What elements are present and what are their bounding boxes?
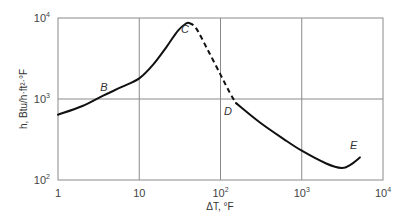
curve-segment — [189, 23, 236, 103]
y-tick-labels: 102103104 — [34, 11, 50, 186]
point-label-e: E — [350, 139, 358, 151]
curve-segment — [236, 103, 360, 168]
x-tick-label: 10 — [133, 187, 145, 199]
x-tick-labels: 110102103104 — [55, 186, 391, 199]
y-tick-label: 102 — [34, 173, 50, 186]
x-tick-label: 104 — [375, 186, 391, 199]
x-tick-label: 102 — [212, 186, 228, 199]
point-label-b: B — [100, 81, 107, 93]
y-tick-label: 103 — [34, 92, 50, 105]
curve-segment — [58, 23, 189, 115]
point-label-d: D — [224, 105, 232, 117]
x-axis-label: ΔT, °F — [206, 201, 233, 212]
grid-lines — [58, 18, 383, 180]
y-axis-label: h, Btu/h·ft²·°F — [18, 69, 29, 129]
y-tick-label: 104 — [34, 11, 50, 24]
boiling-curve-chart: BCDE 110102103104 102103104 ΔT, °F h, Bt… — [0, 0, 410, 222]
x-tick-label: 103 — [294, 186, 310, 199]
boiling-curve — [58, 23, 360, 168]
x-tick-label: 1 — [55, 187, 61, 199]
point-label-c: C — [181, 23, 189, 35]
